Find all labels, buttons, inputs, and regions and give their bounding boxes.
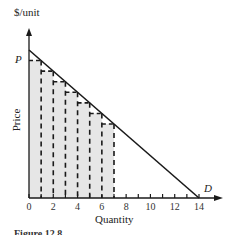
x-tick-label: 14: [194, 201, 204, 212]
x-tick-label: 2: [51, 201, 56, 212]
x-tick-label: 10: [145, 201, 155, 212]
figure-caption: Figure 12.8: [14, 228, 62, 235]
x-tick-label: 4: [75, 201, 80, 212]
y-axis-label: Price: [10, 109, 22, 132]
y-unit-label: $/unit: [14, 6, 40, 18]
y-axis-arrow-icon: [26, 28, 32, 36]
x-tick-label: 8: [124, 201, 129, 212]
x-tick-label: 6: [99, 201, 104, 212]
chart-canvas: [0, 0, 231, 235]
demand-label: D: [204, 182, 212, 194]
x-tick-label: 12: [170, 201, 180, 212]
x-tick-label: 0: [27, 201, 32, 212]
price-marker-label: P: [15, 53, 22, 65]
x-axis-arrow-icon: [214, 195, 223, 201]
x-axis-label: Quantity: [95, 213, 134, 225]
